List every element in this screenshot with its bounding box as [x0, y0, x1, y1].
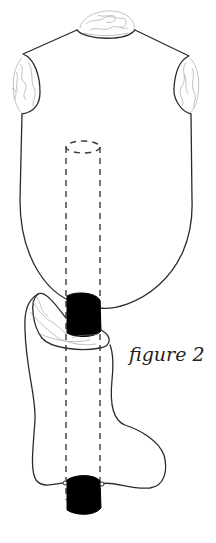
join-block-lower — [67, 476, 101, 515]
figure-2-diagram: figure 2 — [0, 0, 216, 543]
connector-right — [100, 482, 104, 486]
right-armhole-texture-icon — [180, 58, 199, 113]
connector-left — [63, 481, 67, 485]
diagram-canvas — [0, 0, 216, 543]
neck-texture-icon — [80, 11, 134, 36]
torso-outline — [20, 30, 192, 308]
left-armhole-texture-icon — [12, 58, 35, 113]
join-block-upper — [67, 293, 101, 337]
neck-curve — [77, 30, 135, 38]
figure-caption: figure 2 — [129, 343, 205, 365]
